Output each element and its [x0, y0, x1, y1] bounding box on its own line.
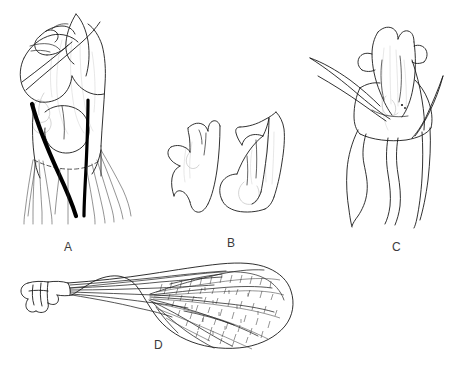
- panel-label-d: D: [154, 338, 163, 352]
- panel-d-wing-base: [21, 281, 72, 312]
- panel-label-c: C: [392, 240, 401, 254]
- panel-label-a: A: [64, 240, 73, 254]
- panel-label-b: B: [227, 236, 236, 250]
- panel-b-right-paramere: [220, 112, 285, 212]
- panel-a-outline: [20, 14, 105, 178]
- panel-a-bold-rod-left: [32, 104, 76, 216]
- panel-c-spines: [310, 58, 443, 138]
- panel-c-descending-processes: [347, 128, 431, 228]
- panel-c-outline: [354, 27, 432, 141]
- panel-c-ghost-lines: [382, 46, 407, 130]
- panel-b-left-paramere: [168, 121, 220, 212]
- panel-d-wing-outline: [68, 263, 293, 348]
- panel-b-artwork: [168, 112, 284, 212]
- panel-a-setal-fringe: [24, 150, 131, 224]
- panel-c-artwork: [310, 27, 443, 228]
- figure-plate: A B C D: [0, 0, 453, 371]
- figure-artwork: [0, 0, 453, 371]
- panel-d-artwork: [21, 263, 293, 349]
- panel-a-artwork: [20, 14, 131, 224]
